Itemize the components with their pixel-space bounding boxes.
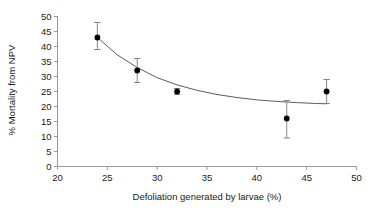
scatter-plot: 05101520253035404550 20253035404550 Defo…: [0, 0, 380, 211]
x-tick-label: 20: [52, 172, 63, 183]
y-axis-ticks: 05101520253035404550: [41, 11, 58, 172]
error-bars-group: [94, 23, 330, 139]
x-tick-label: 45: [301, 172, 312, 183]
fit-curve: [97, 38, 326, 104]
y-tick-label: 25: [41, 86, 52, 97]
y-tick-label: 10: [41, 131, 52, 142]
x-tick-label: 30: [152, 172, 163, 183]
x-axis-ticks: 20253035404550: [52, 167, 362, 183]
x-axis-title: Defoliation generated by larvae (%): [133, 191, 282, 202]
data-point-marker: [284, 116, 290, 122]
data-point-marker: [94, 35, 100, 41]
y-tick-label: 15: [41, 116, 52, 127]
y-tick-label: 45: [41, 26, 52, 37]
data-points-group: [94, 35, 329, 122]
y-tick-label: 5: [46, 146, 51, 157]
data-point-marker: [174, 89, 180, 95]
x-tick-label: 35: [202, 172, 213, 183]
y-tick-label: 20: [41, 101, 52, 112]
y-tick-label: 0: [46, 161, 51, 172]
fit-curve-path: [97, 38, 326, 104]
data-point-marker: [324, 89, 330, 95]
data-point-marker: [134, 68, 140, 74]
x-tick-label: 40: [252, 172, 263, 183]
y-tick-label: 35: [41, 56, 52, 67]
x-tick-label: 50: [351, 172, 362, 183]
y-tick-label: 30: [41, 71, 52, 82]
y-tick-label: 50: [41, 11, 52, 22]
y-axis-title: % Mortality from NPV: [6, 44, 17, 135]
x-tick-label: 25: [102, 172, 113, 183]
axes-group: [58, 16, 357, 167]
y-tick-label: 40: [41, 41, 52, 52]
chart-figure: 05101520253035404550 20253035404550 Defo…: [0, 0, 380, 211]
